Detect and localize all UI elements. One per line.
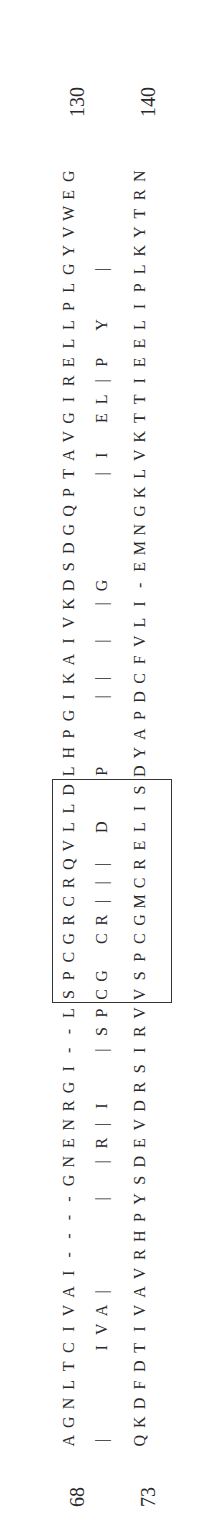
residue: V: [60, 1301, 78, 1320]
residue: G: [60, 520, 78, 539]
residue: R: [60, 1097, 78, 1116]
residue: C: [60, 1338, 78, 1357]
residue: I: [131, 297, 149, 316]
residue: -: [60, 1227, 78, 1246]
residue: Y: [60, 241, 78, 260]
residue: P: [131, 279, 149, 298]
residue: L: [131, 613, 149, 632]
residue: |: [93, 595, 111, 614]
residue: [93, 1245, 111, 1264]
residue: I: [60, 1060, 78, 1079]
residue: [93, 520, 111, 539]
residue: K: [131, 483, 149, 502]
residue: L: [60, 334, 78, 353]
residue: |: [93, 669, 111, 688]
residue: [93, 613, 111, 632]
residue: -: [60, 1208, 78, 1227]
residue: L: [60, 316, 78, 335]
residue: [93, 427, 111, 446]
residue: V: [93, 1320, 111, 1339]
residue: Y: [131, 223, 149, 242]
residue: [93, 502, 111, 521]
residue: -: [60, 1245, 78, 1264]
residue: T: [131, 1338, 149, 1357]
residue: R: [131, 1245, 149, 1264]
residue: F: [131, 1376, 149, 1395]
bottom-start-number: 73: [131, 1487, 165, 1507]
residue: I: [131, 1041, 149, 1060]
residue: |: [93, 372, 111, 391]
residue: V: [60, 427, 78, 446]
residue: L: [93, 390, 111, 409]
residue: G: [60, 1171, 78, 1190]
residue: G: [60, 1413, 78, 1432]
residue: L: [131, 316, 149, 335]
residue: |: [93, 1153, 111, 1172]
residue: [93, 1060, 111, 1079]
residue: [93, 1078, 111, 1097]
residue: [93, 1171, 111, 1190]
residue: R: [131, 186, 149, 205]
residue: A: [131, 725, 149, 744]
residue: -: [60, 1022, 78, 1041]
residue: R: [131, 1022, 149, 1041]
residue: S: [131, 1171, 149, 1190]
residue: S: [60, 558, 78, 577]
residue: I: [60, 632, 78, 651]
residue: D: [131, 1153, 149, 1172]
residue: A: [60, 446, 78, 465]
residue: E: [60, 186, 78, 205]
residue: Q: [60, 502, 78, 521]
residue: |: [93, 632, 111, 651]
residue: G: [93, 576, 111, 595]
residue: Y: [131, 1190, 149, 1209]
residue: D: [131, 1394, 149, 1413]
residue: |: [93, 1283, 111, 1302]
residue: W: [60, 204, 78, 223]
residue: P: [131, 1208, 149, 1227]
residue: P: [131, 706, 149, 725]
residue: [93, 1394, 111, 1413]
residue: I: [131, 372, 149, 391]
residue: |: [93, 688, 111, 707]
residue: [93, 725, 111, 744]
residue: I: [60, 688, 78, 707]
residue: Y: [93, 316, 111, 335]
residue: T: [131, 204, 149, 223]
residue: N: [131, 167, 149, 186]
residue: D: [60, 576, 78, 595]
residue: [93, 1208, 111, 1227]
residue: K: [60, 595, 78, 614]
residue: P: [93, 353, 111, 372]
residue: D: [131, 1097, 149, 1116]
residue: [93, 334, 111, 353]
residue: I: [131, 595, 149, 614]
residue: C: [131, 669, 149, 688]
top-end-number: 130: [60, 87, 94, 117]
residue: I: [93, 1338, 111, 1357]
residue: N: [60, 1394, 78, 1413]
residue: G: [60, 1078, 78, 1097]
residue: D: [131, 688, 149, 707]
residue: S: [131, 1060, 149, 1079]
residue: |: [93, 1041, 111, 1060]
residue: G: [60, 260, 78, 279]
residue: G: [131, 502, 149, 521]
residue: E: [131, 334, 149, 353]
residue: R: [131, 1078, 149, 1097]
residue: P: [60, 725, 78, 744]
residue: [93, 1357, 111, 1376]
residue: I: [60, 1320, 78, 1339]
residue: E: [93, 409, 111, 428]
bottom-end-number: 140: [131, 87, 165, 117]
residue: Q: [131, 1431, 149, 1450]
residue: H: [60, 743, 78, 762]
residue: P: [60, 297, 78, 316]
residue: I: [131, 1320, 149, 1339]
residue: H: [131, 1227, 149, 1246]
residue: [93, 706, 111, 725]
residue: [93, 1264, 111, 1283]
residue: I: [93, 446, 111, 465]
residue: A: [60, 1431, 78, 1450]
residue: -: [60, 1041, 78, 1060]
